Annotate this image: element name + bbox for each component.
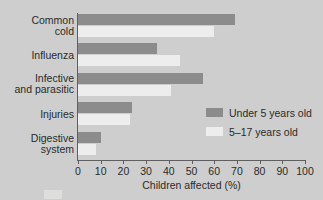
x-axis-title: Children affected (%) — [78, 179, 305, 191]
bar-under5-common-cold — [78, 14, 235, 25]
x-tick-label-30: 30 — [140, 165, 152, 177]
x-tick-label-20: 20 — [118, 165, 130, 177]
bar-group-common-cold — [78, 13, 305, 42]
x-tick-mark-60 — [214, 160, 215, 164]
x-tick-mark-90 — [282, 160, 283, 164]
bar-under5-influenza — [78, 43, 157, 54]
legend-label-5to17: 5–17 years old — [229, 126, 298, 138]
x-tick-label-90: 90 — [276, 165, 288, 177]
bar-5to17-common-cold — [78, 26, 214, 37]
category-label-2: Infective and parasitic — [14, 73, 74, 95]
bar-group-infective-and-parasitic — [78, 72, 305, 101]
legend-label-under5: Under 5 years old — [229, 107, 312, 119]
legend-swatch-under5-icon — [206, 108, 223, 117]
category-label-3: Injuries — [40, 109, 74, 120]
x-tick-label-100: 100 — [296, 165, 314, 177]
x-tick-label-70: 70 — [231, 165, 243, 177]
x-tick-label-50: 50 — [186, 165, 198, 177]
category-label-0: Common cold — [31, 15, 74, 37]
bar-5to17-infective — [78, 85, 171, 96]
x-tick-mark-10 — [101, 160, 102, 164]
x-tick-mark-80 — [260, 160, 261, 164]
x-tick-mark-50 — [192, 160, 193, 164]
x-tick-mark-40 — [169, 160, 170, 164]
x-tick-mark-100 — [305, 160, 306, 164]
legend-entry-5to17: 5–17 years old — [206, 124, 312, 139]
bar-under5-infective — [78, 73, 203, 84]
bar-under5-injuries — [78, 102, 132, 113]
x-tick-mark-30 — [146, 160, 147, 164]
x-tick-label-0: 0 — [75, 165, 81, 177]
legend: Under 5 years old 5–17 years old — [206, 105, 312, 143]
x-tick-label-10: 10 — [95, 165, 107, 177]
bar-chart: Common cold Influenza Infective and para… — [0, 0, 323, 200]
x-tick-mark-0 — [78, 160, 79, 164]
x-tick-label-60: 60 — [208, 165, 220, 177]
bar-5to17-digestive — [78, 144, 96, 155]
x-tick-label-40: 40 — [163, 165, 175, 177]
x-tick-mark-70 — [237, 160, 238, 164]
category-label-1: Influenza — [31, 50, 74, 61]
bar-under5-digestive — [78, 132, 101, 143]
bar-group-influenza — [78, 42, 305, 71]
category-label-4: Digestive system — [31, 133, 74, 155]
x-tick-label-80: 80 — [254, 165, 266, 177]
bar-5to17-influenza — [78, 55, 180, 66]
x-tick-mark-20 — [123, 160, 124, 164]
legend-entry-under5: Under 5 years old — [206, 105, 312, 120]
scan-artifact — [44, 190, 62, 199]
legend-swatch-5to17-icon — [206, 127, 223, 136]
bar-5to17-injuries — [78, 114, 130, 125]
